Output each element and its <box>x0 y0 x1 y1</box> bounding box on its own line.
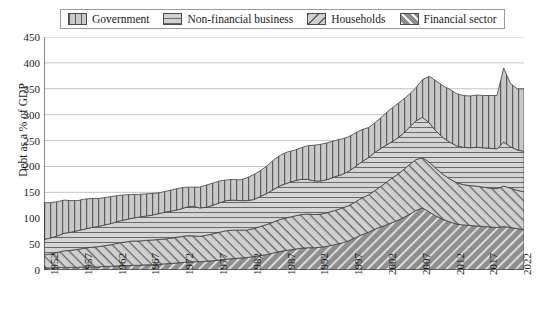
stacked-area-chart: Government Non-financial business Househ… <box>0 0 538 311</box>
x-tick-label: 1952 <box>48 253 60 275</box>
x-tick-label: 2022 <box>521 253 533 275</box>
x-tick-label: 1982 <box>251 253 263 275</box>
x-tick-label: 1977 <box>217 253 229 275</box>
x-tick-label: 1972 <box>183 253 195 275</box>
x-tick-label: 1997 <box>352 253 364 275</box>
x-tick-label: 2017 <box>487 253 499 275</box>
x-tick-label: 1987 <box>285 253 297 275</box>
x-tick-label: 1992 <box>318 253 330 275</box>
x-tick-label: 1962 <box>116 253 128 275</box>
x-tick-label: 2012 <box>454 253 466 275</box>
x-tick-label: 1957 <box>82 253 94 275</box>
x-tick-label: 2002 <box>386 253 398 275</box>
x-tick-label: 1967 <box>149 253 161 275</box>
x-tick-label: 2007 <box>420 253 432 275</box>
x-axis-ticks: 1952195719621967197219771982198719921997… <box>0 0 538 311</box>
